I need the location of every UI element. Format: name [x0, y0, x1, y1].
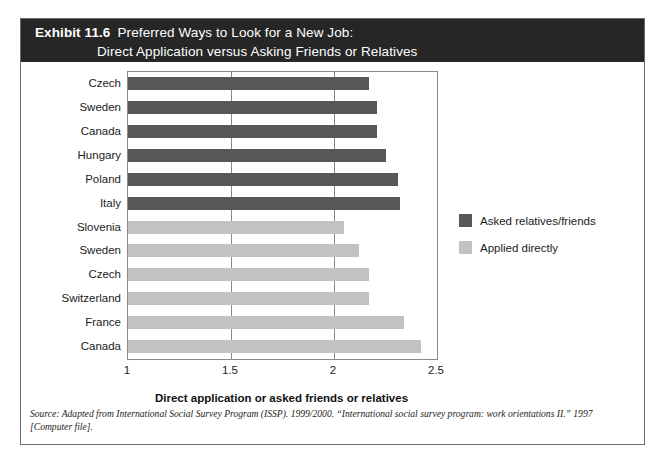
legend-item-asked-relatives-friends: Asked relatives/friends: [459, 214, 596, 227]
bar-row: Italy: [128, 192, 437, 216]
category-label: Sweden: [32, 101, 128, 114]
category-label: Sweden: [32, 244, 128, 257]
category-label: Czech: [32, 77, 128, 90]
exhibit-header-row-2: Direct Application versus Asking Friends…: [35, 42, 634, 61]
category-label: France: [32, 316, 128, 329]
exhibit-number-label: Exhibit 11.6: [35, 25, 110, 40]
bar-row: Switzerland: [128, 287, 437, 311]
exhibit-figure: Exhibit 11.6Preferred Ways to Look for a…: [20, 18, 645, 445]
category-label: Canada: [32, 125, 128, 138]
bar-row: Czech: [128, 263, 437, 287]
bar: [128, 101, 377, 114]
category-label: Canada: [32, 340, 128, 353]
legend-swatch-icon-applied-directly: [459, 241, 472, 254]
exhibit-title-line-2: Direct Application versus Asking Friends…: [97, 44, 417, 59]
x-axis-tick-label: 2: [330, 364, 336, 376]
bar-row: Hungary: [128, 144, 437, 168]
category-label: Czech: [32, 268, 128, 281]
bar: [128, 292, 369, 305]
chart-region: CzechSwedenCanadaHungaryPolandItalySlove…: [21, 62, 644, 402]
legend-item-applied-directly: Applied directly: [459, 241, 596, 254]
bar: [128, 125, 377, 138]
source-note: Source: Adapted from International Socia…: [30, 408, 635, 433]
bar: [128, 316, 404, 329]
category-label: Poland: [32, 173, 128, 186]
bar-row: Sweden: [128, 96, 437, 120]
bar: [128, 340, 421, 353]
legend-label-applied-directly: Applied directly: [480, 242, 558, 254]
bar-row: Canada: [128, 120, 437, 144]
bar: [128, 197, 400, 210]
bar-row: Slovenia: [128, 216, 437, 240]
bar-row: Canada: [128, 335, 437, 359]
x-axis-tick-label: 1.5: [222, 364, 238, 376]
legend-swatch-icon-asked-relatives-friends: [459, 214, 472, 227]
bar-row: Czech: [128, 72, 437, 96]
bar: [128, 77, 369, 90]
bar: [128, 173, 398, 186]
bar-row: France: [128, 311, 437, 335]
category-label: Italy: [32, 197, 128, 210]
plot-area: CzechSwedenCanadaHungaryPolandItalySlove…: [127, 71, 438, 360]
bar: [128, 268, 369, 281]
x-axis-tick-label: 2.5: [428, 364, 444, 376]
legend-label-asked-relatives-friends: Asked relatives/friends: [480, 215, 596, 227]
bar: [128, 149, 386, 162]
chart-legend: Asked relatives/friends Applied directly: [459, 214, 596, 268]
category-label: Hungary: [32, 149, 128, 162]
category-label: Switzerland: [32, 292, 128, 305]
exhibit-header: Exhibit 11.6Preferred Ways to Look for a…: [21, 19, 644, 62]
exhibit-header-row-1: Exhibit 11.6Preferred Ways to Look for a…: [35, 23, 634, 42]
bar: [128, 244, 359, 257]
bar: [128, 221, 344, 234]
bar-row: Sweden: [128, 239, 437, 263]
x-axis-tick-label: 1: [124, 364, 130, 376]
category-label: Slovenia: [32, 221, 128, 234]
x-axis-title: Direct application or asked friends or r…: [127, 392, 436, 404]
bar-row: Poland: [128, 168, 437, 192]
exhibit-title-line-1: Preferred Ways to Look for a New Job:: [117, 25, 353, 40]
